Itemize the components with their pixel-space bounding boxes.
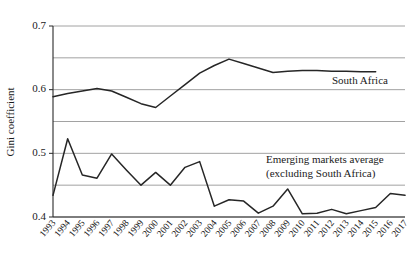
- y-axis-title: Gini coefficient: [4, 87, 16, 156]
- gini-coefficient-line-chart: 0.70.60.50.4 199319941995199619971998199…: [0, 0, 411, 262]
- x-tick-label-group: 1993199419951996199719981999200020012002…: [38, 218, 410, 239]
- emerging-markets-label-line1: Emerging markets average: [266, 153, 384, 165]
- south-africa-label: South Africa: [332, 74, 388, 86]
- emerging-markets-label-line2: (excluding South Africa): [266, 167, 376, 180]
- series-line-south-africa: [53, 59, 376, 107]
- y-tick-label-group: 0.70.60.50.4: [32, 19, 46, 222]
- gridlines-group: [53, 26, 405, 217]
- y-tick-label: 0.6: [32, 82, 46, 94]
- y-tick-group: [49, 26, 53, 217]
- y-tick-label: 0.4: [32, 210, 46, 222]
- y-tick-label: 0.7: [32, 19, 46, 31]
- y-tick-label: 0.5: [32, 146, 46, 158]
- chart-canvas: 0.70.60.50.4 199319941995199619971998199…: [0, 0, 411, 262]
- x-tick-label: 2017: [390, 218, 410, 239]
